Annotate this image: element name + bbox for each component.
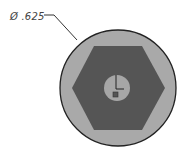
- origin-marker-icon: [113, 92, 118, 97]
- part-drawing: [0, 0, 185, 155]
- leader-line: [44, 15, 77, 40]
